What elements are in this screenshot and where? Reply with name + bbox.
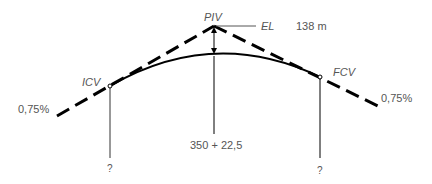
tangent-lines [57,26,378,116]
left-grade-label: 0,75% [18,103,49,115]
elevation-value: 138 m [296,20,327,32]
icv-station-label: ? [107,163,113,174]
vertical-curve-diagram: PIV EL 138 m ICV FCV 0,75% 0,75% 350 + 2… [0,0,432,184]
vertical-curve [110,54,320,86]
fcv-label: FCV [333,66,357,78]
icv-label: ICV [82,76,102,88]
right-grade-label: 0,75% [381,92,412,104]
left-tangent-line [57,26,214,116]
piv-label: PIV [204,11,223,23]
piv-station-label: 350 + 22,5 [190,139,242,151]
fcv-point [318,75,322,79]
fcv-station-label: ? [317,165,323,176]
el-label: EL [261,20,274,32]
icv-point [108,84,112,88]
